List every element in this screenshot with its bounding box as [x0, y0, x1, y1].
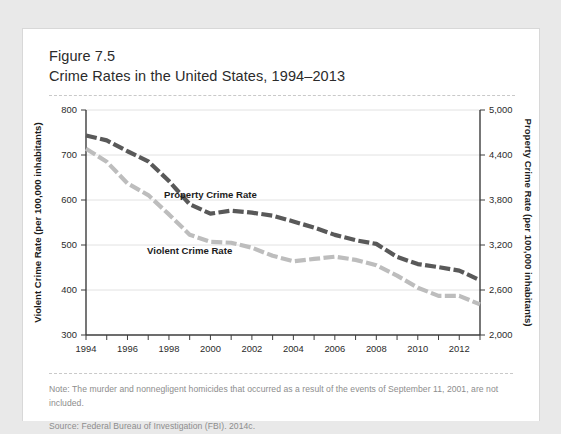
plot-lines: [86, 136, 480, 305]
svg-text:3,200: 3,200: [489, 239, 512, 250]
svg-text:5,000: 5,000: [489, 104, 512, 115]
svg-text:800: 800: [61, 104, 77, 115]
svg-text:1998: 1998: [159, 343, 180, 354]
svg-text:600: 600: [61, 194, 77, 205]
y-axis-right-ticks: [480, 110, 485, 335]
svg-text:700: 700: [61, 149, 77, 160]
svg-text:4,400: 4,400: [489, 149, 512, 160]
svg-text:300: 300: [61, 329, 77, 340]
y-axis-left-title: Violent Crime Rate (per 100,000 inhabita…: [32, 122, 43, 322]
svg-text:2002: 2002: [241, 343, 262, 354]
svg-text:500: 500: [61, 239, 77, 250]
y-axis-right-tick-labels: 2,0002,6003,2003,8004,4005,000: [489, 104, 512, 340]
property-crime-series-label: Property Crime Rate: [164, 189, 257, 200]
axis-lines: [86, 110, 480, 335]
figure-footer: Note: The murder and nonnegligent homici…: [23, 373, 539, 434]
title-block: Figure 7.5 Crime Rates in the United Sta…: [23, 29, 539, 86]
svg-text:2010: 2010: [407, 343, 428, 354]
violent-crime-series-label: Violent Crime Rate: [147, 245, 232, 256]
svg-text:1996: 1996: [117, 343, 138, 354]
svg-text:2012: 2012: [449, 343, 470, 354]
svg-text:2006: 2006: [324, 343, 345, 354]
y-axis-right-title: Property Crime Rate (per 100,000 inhabit…: [523, 119, 534, 327]
svg-text:2,600: 2,600: [489, 284, 512, 295]
chart-area: 1994199619982000200220042006200820102012…: [23, 96, 541, 364]
svg-text:2,000: 2,000: [489, 329, 512, 340]
svg-text:1994: 1994: [76, 343, 97, 354]
crime-rates-line-chart: 1994199619982000200220042006200820102012…: [23, 96, 541, 364]
svg-text:2004: 2004: [283, 343, 304, 354]
figure-title: Crime Rates in the United States, 1994–2…: [49, 66, 539, 86]
figure-number: Figure 7.5: [49, 47, 539, 66]
figure-note: Note: The murder and nonnegligent homici…: [49, 383, 513, 410]
figure-card: Figure 7.5 Crime Rates in the United Sta…: [22, 28, 540, 421]
svg-text:3,800: 3,800: [489, 194, 512, 205]
footer-divider: [49, 373, 513, 374]
figure-source: Source: Federal Bureau of Investigation …: [49, 420, 513, 434]
svg-text:2000: 2000: [200, 343, 221, 354]
y-axis-left-tick-labels: 300400500600700800: [61, 104, 77, 340]
svg-text:400: 400: [61, 284, 77, 295]
svg-text:2008: 2008: [366, 343, 387, 354]
y-axis-left-ticks: [81, 110, 86, 335]
x-axis-ticks: [86, 335, 480, 340]
x-axis-tick-labels: 1994199619982000200220042006200820102012: [76, 343, 470, 354]
